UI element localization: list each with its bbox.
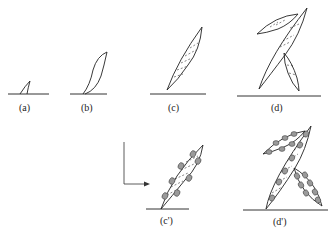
panel-c: (c) [150,27,206,114]
cell-icon [291,132,297,137]
cell-icon [194,157,202,166]
cell-icon [173,189,181,198]
cell-icon [288,154,295,162]
transition-arrow [124,142,150,187]
panel-label-c-prime: (c') [160,215,173,227]
vein-dash [280,42,290,47]
leaf-lower-right [284,53,299,91]
cell-icon [301,171,309,179]
panel-label-d: (d) [271,102,283,114]
vein-dash [287,65,294,66]
panel-label-b: (b) [81,102,93,114]
leaf-development-diagram: (a) (b) (c) (d) [0,0,335,231]
panel-c-prime: (c') [146,145,203,227]
arrow-head-icon [144,182,150,187]
vein-dash [174,74,183,77]
cell-icon [177,162,185,171]
panel-d: (d) [237,8,321,114]
cell-icon [314,196,322,204]
arrow-line [124,142,146,184]
cell-icon [289,142,295,147]
panel-label-c: (c) [168,102,179,114]
panel-label-d-prime: (d') [273,216,286,228]
vein-dash [190,43,198,48]
leaf-main [259,8,307,89]
panel-label-a: (a) [19,102,30,114]
leaf-sprout [20,81,30,94]
cell-icon [297,181,305,189]
panel-b: (b) [70,52,107,114]
cell-icon [279,147,285,152]
panel-a: (a) [8,81,49,114]
cell-icon [185,174,193,183]
leaf-with-cells [161,145,203,209]
leaf-mature [167,27,202,90]
cell-icon [189,150,197,159]
panel-d-prime: (d') [243,126,328,228]
cell-icon [266,150,272,155]
cell-icon [282,136,288,141]
cell-icon [168,177,176,186]
leaf-elongating [83,52,107,94]
cell-icon [293,172,301,180]
cell-icon [273,141,279,146]
